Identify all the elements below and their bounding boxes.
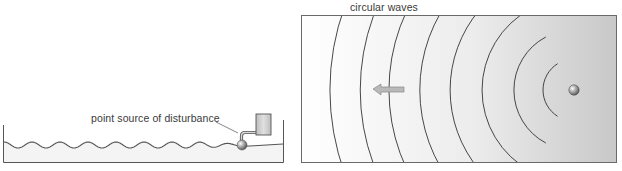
point-source-ball	[237, 140, 247, 150]
vibrator-arm	[242, 133, 257, 142]
circular-waves-label: circular waves	[350, 1, 418, 13]
vibrator-box	[256, 114, 271, 135]
ripple-tank-top-view	[302, 0, 617, 171]
point-source-label: point source of disturbance	[91, 112, 220, 124]
ripple-tank-diagram	[0, 0, 622, 171]
point-source-ball	[569, 85, 579, 95]
